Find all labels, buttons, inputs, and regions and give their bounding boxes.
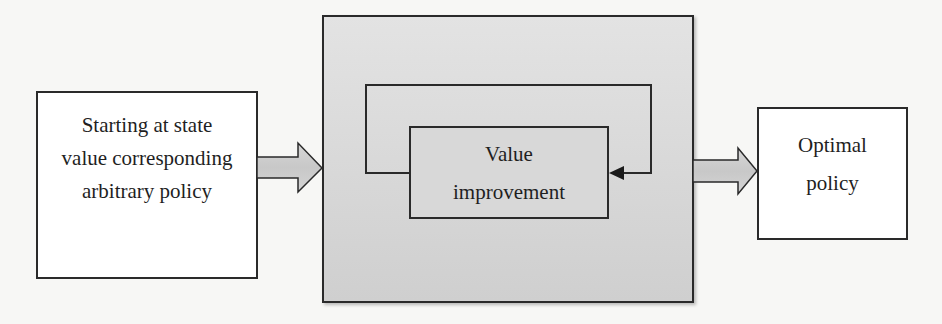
diagram-canvas: Starting at state value corresponding ar… [0,0,942,324]
value-improvement-node: Value improvement [409,126,609,219]
block-arrow-right-icon [693,148,757,194]
end-node: Optimal policy [757,107,908,240]
block-arrow-right-icon [257,143,322,192]
end-node-label: Optimal policy [798,126,867,202]
value-improvement-label: Value improvement [453,135,565,211]
